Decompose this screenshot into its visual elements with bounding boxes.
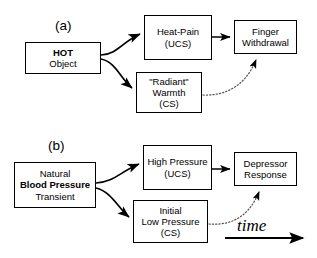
box-initial-low-pressure-line1: Initial [159,205,181,216]
box-blood-pressure-line2: Blood Pressure [20,179,90,190]
connector-natural-to-highpress [96,164,139,183]
box-depressor-response: Depressor Response [234,152,297,186]
connector-hot-to-heatpain [101,34,140,55]
box-initial-low-pressure-line3: (CS) [161,227,181,238]
time-axis-label: time [237,216,266,236]
box-heat-pain-ucs: Heat-Pain (UCS) [144,15,212,60]
box-initial-low-pressure-line2: Low Pressure [141,216,199,227]
panel-label-b: (b) [48,138,65,153]
figure-canvas: (a) HOT Object Heat-Pain (UCS) Finger Wi… [0,0,317,258]
box-finger-withdrawal-line2: Withdrawal [242,37,289,48]
box-heat-pain-line1: Heat-Pain [157,26,199,37]
box-finger-withdrawal: Finger Withdrawal [234,20,297,54]
box-heat-pain-line2: (UCS) [165,38,191,49]
box-depressor-response-line1: Depressor [244,158,288,169]
box-blood-pressure-line3: Transient [35,191,74,202]
box-radiant-warmth-line1: "Radiant" [149,76,189,87]
box-radiant-warmth-cs: "Radiant" Warmth (CS) [136,72,202,113]
box-high-pressure-line2: (UCS) [164,168,190,179]
box-high-pressure-line1: High Pressure [147,156,207,167]
box-depressor-response-line2: Response [244,169,287,180]
box-hot-object-line2: Object [49,58,76,69]
panel-label-a: (a) [55,18,72,33]
connector-radiant-to-finger-dotted [203,60,256,95]
connector-hot-to-radiant [101,59,132,88]
box-blood-pressure-line1: Natural [40,168,71,179]
box-blood-pressure-transient: Natural Blood Pressure Transient [14,162,96,208]
connector-natural-to-initiallow [96,188,129,217]
box-radiant-warmth-line3: (CS) [159,98,179,109]
box-finger-withdrawal-line1: Finger [252,26,279,37]
box-hot-object: HOT Object [25,42,101,74]
box-hot-object-line1: HOT [53,47,73,58]
box-initial-low-pressure-cs: Initial Low Pressure (CS) [133,200,208,243]
box-high-pressure-ucs: High Pressure (UCS) [143,145,212,190]
box-radiant-warmth-line2: Warmth [153,87,186,98]
